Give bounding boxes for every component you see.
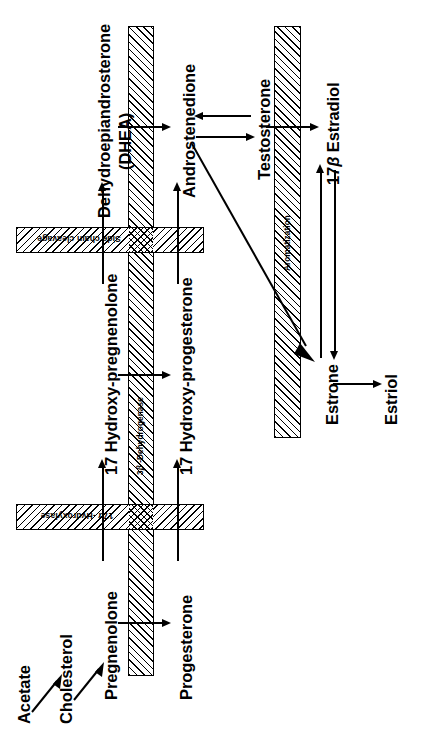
arrow-line-17ohpregnenolone-to-dhea <box>102 191 104 284</box>
arrow-head-estradiol-to-estrone <box>330 351 338 360</box>
enzyme-label-side-chain-cleavage: Side chain cleavage <box>24 234 134 243</box>
compound-label-progesterone: Progesterone <box>178 595 195 700</box>
arrow-line-dhea-to-androstenedione <box>118 126 164 128</box>
arrow-head-17ohpregnenolone-to-17ohprogesterone <box>162 371 171 379</box>
arrow-head-pregnenolone-to-progesterone <box>162 619 171 627</box>
steroid-pathway-diagram: Side chain cleavage 17α -Hydroxylase 3β … <box>0 0 425 729</box>
arrow-line-testosterone-to-estradiol <box>266 126 312 128</box>
arrow-head-testosterone-to-androstenedione <box>194 112 203 120</box>
arrow-line-17ohpregnenolone-to-17ohprogesterone <box>118 374 164 376</box>
compound-label-estrone: Estrone <box>324 364 341 425</box>
arrow-androstenedione-to-estrone <box>188 140 323 370</box>
arrow-head-17ohpregnenolone-to-dhea <box>98 182 106 191</box>
arrow-head-dhea-to-androstenedione <box>162 123 171 131</box>
compound-label-estriol: Estriol <box>383 374 400 425</box>
compound-label-dhea-abbrev: (DHEA) <box>117 113 134 170</box>
enzyme-label-17a-hydroxylase: 17α -Hydroxylase <box>26 511 128 520</box>
arrow-head-progesterone-to-17ohprogesterone <box>173 459 181 468</box>
arrow-cholesterol-to-pregnenolone <box>70 660 110 704</box>
enzyme-label-3b-dehydrogenase: 3β -Dehydrogenase <box>137 383 145 489</box>
arrow-line-estrone-to-estradiol <box>320 173 322 358</box>
arrow-acetate-to-cholesterol <box>28 672 68 716</box>
arrow-line-pregnenolone-to-17ohpregnenolone <box>102 468 104 561</box>
band-intersection-lower <box>129 505 152 528</box>
arrow-line-testosterone-to-androstenedione <box>199 115 251 117</box>
arrow-head-estrone-to-estriol <box>373 380 382 388</box>
arrow-line-17ohprogesterone-to-androstenedione <box>177 191 179 284</box>
arrow-line-progesterone-to-17ohprogesterone <box>177 468 179 561</box>
arrow-head-pregnenolone-to-17ohpregnenolone <box>98 459 106 468</box>
arrow-head-estrone-to-estradiol <box>316 164 324 173</box>
arrow-head-17ohprogesterone-to-androstenedione <box>173 182 181 191</box>
arrow-line-estrone-to-estriol <box>333 383 375 385</box>
arrow-line-estradiol-to-estrone <box>334 170 336 353</box>
arrow-line-androstenedione-to-testosterone <box>196 136 248 138</box>
arrow-line-pregnenolone-to-progesterone <box>118 622 164 624</box>
arrow-head-testosterone-to-estradiol <box>310 123 319 131</box>
